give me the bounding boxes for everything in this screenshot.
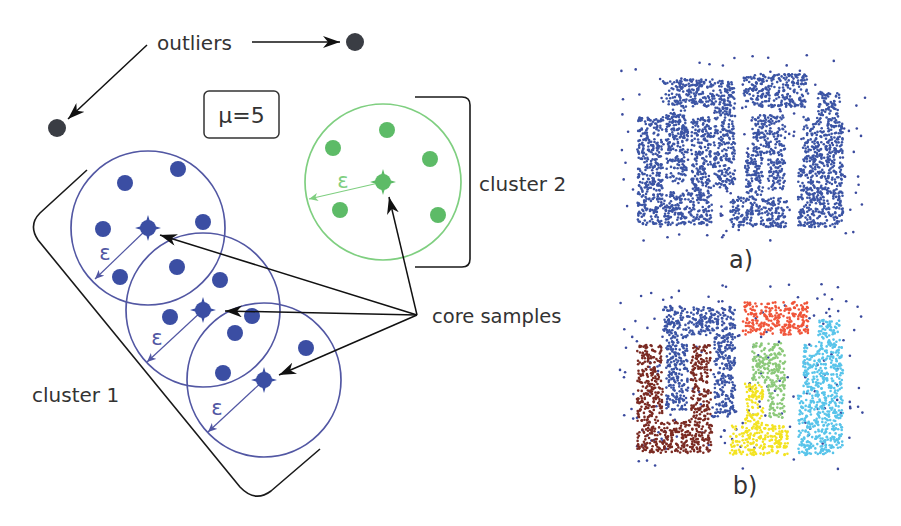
cluster-point-blue-arch — [718, 145, 721, 148]
cluster-point-cyan-blob — [827, 127, 830, 130]
cluster-point-cyan-blob — [824, 446, 827, 449]
cluster-point-yellow-t — [760, 415, 763, 418]
cluster-point-green-hook — [757, 123, 760, 126]
cluster-point-green-hook — [767, 159, 770, 162]
cluster-point-brown-u — [643, 424, 646, 427]
cluster-point-brown-u — [671, 451, 674, 454]
cluster-point-orange-bar — [744, 301, 747, 304]
cluster-point-blue-arch — [676, 145, 679, 148]
cluster-point-brown-u — [636, 350, 639, 353]
cluster-point-cyan-blob — [838, 125, 841, 128]
cluster-point-yellow-t — [761, 219, 764, 222]
cluster-point-brown-u — [706, 124, 709, 127]
cluster-point-brown-u — [690, 193, 693, 196]
cluster-point-green-hook — [776, 158, 779, 161]
cluster-point-brown-u — [667, 435, 670, 438]
cluster-point-blue-arch — [681, 374, 684, 377]
cluster-point-orange-bar — [768, 319, 771, 322]
cluster-point-orange-bar — [778, 86, 781, 89]
cluster-point-cyan-blob — [821, 428, 824, 431]
cluster-point-blue-arch — [669, 176, 672, 179]
cluster-point-cyan-blob — [819, 135, 822, 138]
cluster-point-yellow-t — [762, 411, 765, 414]
cluster-point-brown-u — [692, 356, 695, 359]
cluster-point-cyan-blob — [826, 219, 829, 222]
cluster-point-blue-arch — [720, 96, 723, 99]
noise-point — [742, 83, 745, 86]
cluster-point-yellow-t — [741, 439, 744, 442]
cluster-point-cyan-blob — [802, 210, 805, 213]
cluster-point-brown-u — [640, 395, 643, 398]
cluster-point-blue-arch — [728, 182, 731, 185]
cluster-point-cyan-blob — [811, 397, 814, 400]
cluster-point-green-hook — [779, 384, 782, 387]
cluster-point-orange-bar — [768, 105, 771, 108]
cluster-point-blue-arch — [728, 377, 731, 380]
cluster-point-yellow-t — [745, 178, 748, 181]
cluster-point-brown-u — [653, 384, 656, 387]
cluster-point-brown-u — [644, 397, 647, 400]
cluster-point-blue-arch — [678, 178, 681, 181]
cluster-point-blue-arch — [726, 91, 729, 94]
cluster-point-blue-arch — [732, 155, 735, 158]
cluster-point-green-hook — [763, 152, 766, 155]
cluster-point-blue-arch — [669, 80, 672, 83]
cluster-point-orange-bar — [792, 302, 795, 305]
noise-point — [726, 190, 729, 193]
cluster-point-orange-bar — [775, 97, 778, 100]
cluster-point-orange-bar — [749, 301, 752, 304]
cluster-point-yellow-t — [738, 221, 741, 224]
cluster-point-blue-arch — [672, 395, 675, 398]
cluster-point-cyan-blob — [809, 218, 812, 221]
cluster-point-cyan-blob — [820, 387, 823, 390]
cluster-point-cyan-blob — [817, 395, 820, 398]
cluster-point-brown-u — [659, 124, 662, 127]
cluster-point-blue-arch — [677, 141, 680, 144]
cluster-point-cyan-blob — [809, 138, 812, 141]
cluster-point-brown-u — [705, 380, 708, 383]
cluster-point-cyan-blob — [798, 452, 801, 455]
cluster-point-brown-u — [654, 158, 657, 161]
cluster-point-cyan-blob — [807, 378, 810, 381]
cluster-point-cyan-blob — [840, 174, 843, 177]
cluster-point-cyan-blob — [836, 185, 839, 188]
noise-point — [849, 406, 852, 409]
cluster-point-cyan-blob — [818, 181, 821, 184]
cluster-point-green-hook — [767, 389, 770, 392]
cluster-point-blue-arch — [713, 144, 716, 147]
cluster-point-brown-u — [648, 149, 651, 152]
cluster-point-cyan-blob — [825, 137, 828, 140]
cluster-point-brown-u — [709, 413, 712, 416]
cluster-point-cyan-blob — [802, 116, 805, 119]
noise-point — [792, 135, 795, 138]
cluster-point-blue-arch — [668, 94, 671, 97]
cluster-point-blue-arch — [724, 398, 727, 401]
cluster-point-blue-arch — [673, 324, 676, 327]
cluster-point-green-hook — [768, 408, 771, 411]
cluster-point-blue-arch — [666, 162, 669, 165]
cluster-point-cyan-blob — [825, 345, 828, 348]
cluster-point-cyan-blob — [834, 420, 837, 423]
cluster-point-brown-u — [655, 126, 658, 129]
cluster-point-blue-arch — [721, 320, 724, 323]
cluster-point-cyan-blob — [828, 413, 831, 416]
cluster-point-cyan-blob — [832, 373, 835, 376]
cluster-point-orange-bar — [770, 327, 773, 330]
cluster-point-blue-arch — [718, 85, 721, 88]
cluster-point-brown-u — [682, 437, 685, 440]
cluster-point-blue-arch — [681, 180, 684, 183]
cluster-point-cyan-blob — [836, 150, 839, 153]
cluster-point-orange-bar — [782, 83, 785, 86]
cluster-point-orange-bar — [788, 312, 791, 315]
cluster-point-blue-arch — [714, 383, 717, 386]
cluster-point-blue-arch — [667, 319, 670, 322]
cluster-point-green-hook — [770, 369, 773, 372]
cluster-point-brown-u — [706, 368, 709, 371]
cluster-point-cyan-blob — [835, 141, 838, 144]
cluster-point-orange-bar — [745, 79, 748, 82]
cluster-point-brown-u — [644, 204, 647, 207]
cluster-point-brown-u — [708, 432, 711, 435]
cluster-point-brown-u — [693, 350, 696, 353]
noise-point — [831, 298, 834, 301]
cluster-point-blue-arch — [713, 134, 716, 137]
